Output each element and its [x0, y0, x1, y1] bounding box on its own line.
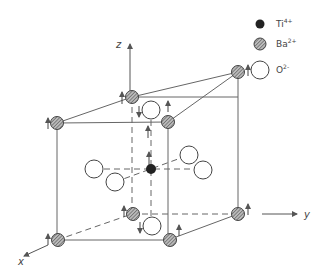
- legend-o-label: O2-: [276, 63, 289, 75]
- legend-ba-label: Ba2+: [276, 37, 297, 49]
- cell-edges: [57, 72, 238, 240]
- y-axis-label: y: [303, 209, 311, 220]
- legend: Ti4+ Ba2+ O2-: [251, 17, 297, 79]
- x-axis-label: x: [17, 256, 24, 267]
- legend-ba-icon: [254, 38, 266, 50]
- x-axis: [24, 245, 48, 256]
- legend-o-icon: [251, 61, 269, 79]
- legend-ti-icon: [256, 20, 265, 29]
- legend-ti-label: Ti4+: [275, 17, 293, 29]
- titanium-atom: [146, 164, 156, 174]
- z-axis-label: z: [115, 39, 122, 50]
- perovskite-diagram: z y x Ti4+: [0, 0, 324, 279]
